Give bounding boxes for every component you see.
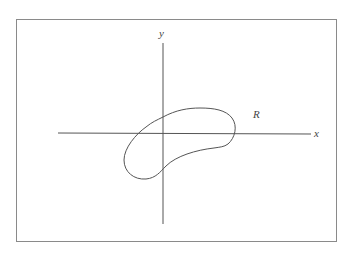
region-label: R [253,109,260,120]
x-axis-label: x [314,128,319,139]
region-r-boundary [124,108,235,179]
x-axis [58,133,311,134]
y-axis-label: y [159,28,164,39]
figure-canvas: y x R [0,0,355,256]
coordinate-diagram [0,0,355,256]
